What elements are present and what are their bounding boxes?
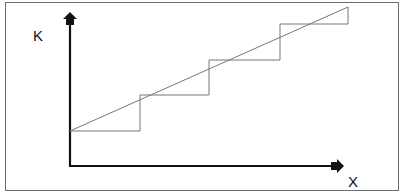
x-axis-arrow-icon [331,159,344,173]
y-axis-arrow-icon [63,12,77,25]
y-axis-label: K [33,27,43,44]
x-axis-label: X [348,173,358,190]
staircase-diagram [0,0,405,195]
